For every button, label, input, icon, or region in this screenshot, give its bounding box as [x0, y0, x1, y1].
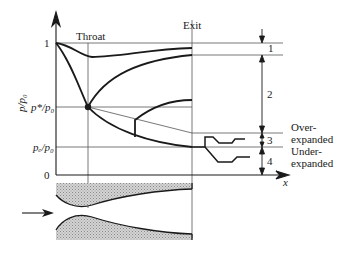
region-1-label: 1: [268, 42, 274, 54]
region-arrows: [260, 29, 265, 175]
y-value-zero: 0: [44, 169, 50, 181]
curve-subsonic-recovery: [88, 55, 192, 107]
curve-converging-to-sonic: [56, 43, 88, 107]
curve-normal-shock: [135, 100, 192, 137]
curve-supersonic-expansion: [88, 107, 192, 147]
region-2-label: 2: [267, 88, 273, 100]
nozzle-upper-wall: [56, 183, 192, 207]
region-4-arrow-bottom-icon: [260, 168, 265, 175]
under-expanded-label-1: Under-: [291, 145, 322, 157]
nozzle-pressure-diagram: Throat Exit 1 p*/p₀ pₑ/p₀ 0 p/p₀ x 1 2 3…: [0, 0, 341, 255]
region-1-arrow-icon: [260, 36, 265, 43]
over-expanded-label-2: expanded: [291, 133, 334, 145]
x-axis-label: x: [282, 176, 288, 188]
p-e-label: pₑ/p₀: [32, 141, 54, 153]
nozzle-lower-wall: [56, 215, 192, 240]
pressure-curves: [56, 43, 250, 162]
curve-subsonic-shallow: [56, 43, 192, 57]
region-4-label: 4: [267, 155, 273, 167]
region-4-arrow-top-icon: [260, 147, 265, 154]
nozzle: [56, 183, 192, 240]
region-3-label: 3: [267, 134, 273, 146]
flow-arrow: [22, 209, 54, 217]
sonic-point: [85, 104, 91, 110]
over-expanded-label-1: Over-: [291, 121, 317, 133]
under-expanded-label-2: expanded: [291, 157, 334, 169]
y-value-one: 1: [44, 37, 50, 49]
throat-label: Throat: [76, 30, 105, 42]
region-3-arrow-top-icon: [260, 133, 264, 138]
curve-under-expanded-jet: [205, 147, 250, 162]
exit-label: Exit: [183, 19, 201, 31]
p-star-label: p*/p₀: [30, 101, 55, 113]
curve-over-expanded-jet: [192, 137, 245, 147]
region-2-arrow-top-icon: [260, 55, 265, 62]
y-axis-label: p/p₀: [15, 94, 27, 113]
